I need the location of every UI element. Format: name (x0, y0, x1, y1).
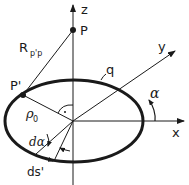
r-vector-line (23, 30, 73, 95)
ds-label: ds' (27, 165, 44, 179)
z-axis-label: z (81, 2, 88, 17)
d-alpha-label: dα (29, 135, 45, 149)
rho-subscript: 0 (33, 115, 38, 124)
point-p (70, 27, 76, 33)
q-label: q (106, 62, 114, 77)
right-angle-dot (64, 111, 66, 113)
d-alpha-arc-2 (60, 148, 70, 151)
point-p-label: P (80, 23, 88, 38)
r-label: R (19, 40, 28, 55)
loop-diagram: z y x P P' R p'p q α ρ 0 dα ds' (0, 0, 189, 185)
y-axis-label: y (158, 39, 166, 54)
r-subscript: p'p (30, 49, 42, 58)
y-axis (73, 51, 175, 121)
x-axis-label: x (172, 125, 180, 140)
point-p-prime-label: P' (10, 78, 21, 93)
alpha-label: α (150, 85, 160, 101)
alpha-arc (149, 100, 155, 121)
ds-arrow (36, 155, 53, 161)
wedge-line-2 (54, 121, 73, 161)
